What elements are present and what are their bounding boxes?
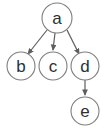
nodes-layer: abcde: [7, 3, 99, 125]
node-a[interactable]: a: [42, 3, 72, 33]
node-d[interactable]: d: [71, 52, 99, 80]
edge-a-to-b: [28, 30, 47, 54]
node-c[interactable]: c: [39, 52, 67, 80]
node-label-a: a: [52, 9, 62, 28]
graph-canvas: abcde: [0, 0, 107, 128]
node-label-c: c: [49, 57, 58, 76]
node-b[interactable]: b: [7, 52, 35, 80]
node-label-b: b: [16, 57, 25, 76]
node-label-d: d: [80, 57, 89, 76]
edge-a-to-d: [67, 30, 79, 54]
node-e[interactable]: e: [71, 97, 99, 125]
edge-a-to-c: [53, 33, 55, 50]
graph-diagram: abcde: [0, 0, 107, 128]
node-label-e: e: [80, 102, 89, 121]
